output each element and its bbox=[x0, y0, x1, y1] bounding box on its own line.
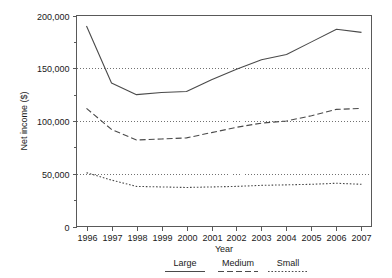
legend-label-small[interactable]: Small bbox=[277, 258, 300, 268]
y-tick-label-150000: 150,000 bbox=[37, 64, 70, 74]
legend-label-medium[interactable]: Medium bbox=[222, 258, 254, 268]
x-tick-label-2004: 2004 bbox=[276, 233, 296, 243]
x-tick-label-1996: 1996 bbox=[77, 233, 97, 243]
y-tick-label-200000: 200,000 bbox=[37, 12, 70, 22]
x-tick-label-2002: 2002 bbox=[226, 233, 246, 243]
y-axis-tick-labels: 050,000100,000150,000200,000 bbox=[37, 12, 70, 233]
data-series-group bbox=[87, 26, 362, 187]
x-axis-tick-labels: 1996199719981999200020012002200320042005… bbox=[77, 233, 371, 243]
chart-legend: LargeMediumSmall bbox=[165, 258, 308, 272]
x-tick-label-1998: 1998 bbox=[127, 233, 147, 243]
x-tick-label-1997: 1997 bbox=[102, 233, 122, 243]
net-income-line-chart: 050,000100,000150,000200,000 19961997199… bbox=[0, 0, 392, 278]
y-axis-ticks bbox=[73, 17, 77, 228]
legend-label-large[interactable]: Large bbox=[173, 258, 196, 268]
x-axis-title: Year bbox=[215, 244, 233, 254]
series-line-large bbox=[87, 26, 362, 95]
x-tick-label-1999: 1999 bbox=[152, 233, 172, 243]
chart-container: 050,000100,000150,000200,000 19961997199… bbox=[0, 0, 392, 278]
x-tick-label-2005: 2005 bbox=[301, 233, 321, 243]
x-axis-ticks bbox=[88, 227, 362, 231]
plot-frame bbox=[77, 16, 372, 227]
series-line-medium bbox=[87, 108, 362, 140]
x-tick-label-2006: 2006 bbox=[326, 233, 346, 243]
plot-gridlines bbox=[77, 69, 372, 175]
x-tick-label-2000: 2000 bbox=[177, 233, 197, 243]
x-tick-label-2007: 2007 bbox=[351, 233, 371, 243]
y-tick-label-50000: 50,000 bbox=[42, 170, 70, 180]
y-axis-title: Net income ($) bbox=[19, 91, 29, 150]
series-line-small bbox=[87, 173, 362, 188]
x-tick-label-2003: 2003 bbox=[251, 233, 271, 243]
y-tick-label-100000: 100,000 bbox=[37, 117, 70, 127]
y-tick-label-0: 0 bbox=[64, 223, 69, 233]
x-tick-label-2001: 2001 bbox=[202, 233, 222, 243]
